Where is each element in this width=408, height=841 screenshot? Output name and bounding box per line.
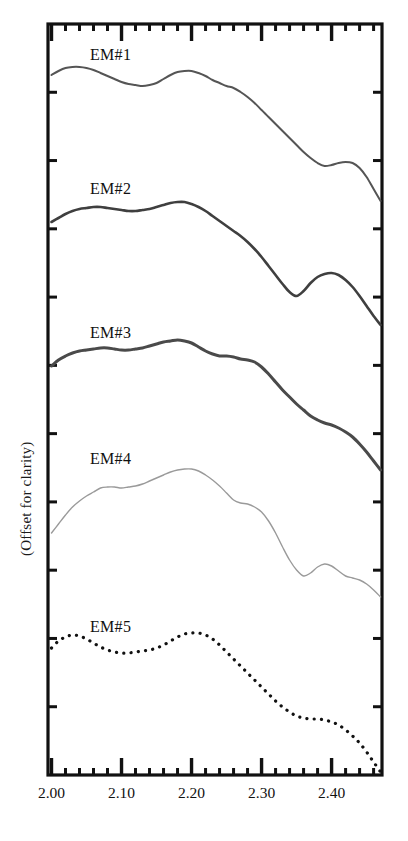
curve-label-em4: EM#4 bbox=[90, 450, 131, 468]
curve-label-em1: EM#1 bbox=[90, 46, 131, 64]
spectral-offset-chart: (Offset for clarity) EM#1 EM#2 EM#3 EM#4… bbox=[0, 0, 408, 841]
curve-em2 bbox=[52, 202, 381, 325]
plot-frame bbox=[48, 24, 382, 775]
plot-area bbox=[0, 0, 408, 841]
x-tick-label-1: 2.10 bbox=[92, 784, 152, 802]
curve-label-em3: EM#3 bbox=[90, 324, 131, 342]
curve-label-em2: EM#2 bbox=[90, 180, 131, 198]
x-tick-label-4: 2.40 bbox=[302, 784, 362, 802]
x-axis-ticks bbox=[52, 24, 374, 775]
x-tick-label-0: 2.00 bbox=[22, 784, 82, 802]
curve-em5 bbox=[52, 633, 381, 772]
x-tick-label-3: 2.30 bbox=[232, 784, 292, 802]
x-tick-label-2: 2.20 bbox=[162, 784, 222, 802]
curve-em4 bbox=[52, 469, 381, 597]
curve-label-em5: EM#5 bbox=[90, 618, 131, 636]
